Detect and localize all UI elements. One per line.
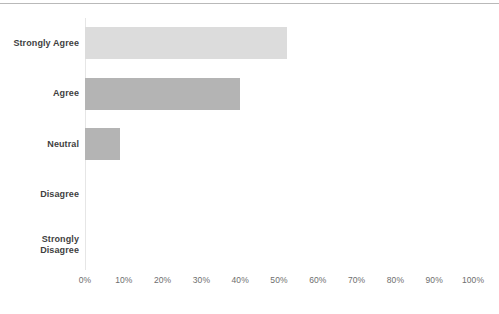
- category-label: Agree: [53, 88, 79, 99]
- category-axis-labels: Strongly AgreeAgreeNeutralDisagreeStrong…: [0, 18, 79, 270]
- bar: [85, 78, 240, 110]
- x-tick-label: 40%: [232, 275, 249, 285]
- plot-area: [85, 18, 473, 270]
- category-label-row: Strongly Disagree: [0, 231, 79, 259]
- category-label: Strongly Agree: [13, 38, 79, 49]
- category-label: Strongly Disagree: [40, 234, 79, 256]
- bar: [85, 128, 120, 160]
- x-tick-label: 50%: [270, 275, 287, 285]
- x-tick-label: 20%: [154, 275, 171, 285]
- x-tick-label: 10%: [115, 275, 132, 285]
- x-tick-label: 90%: [426, 275, 443, 285]
- category-label-row: Agree: [0, 80, 79, 108]
- x-tick-label: 80%: [387, 275, 404, 285]
- x-tick-label: 0%: [79, 275, 92, 285]
- bar-chart: Strongly AgreeAgreeNeutralDisagreeStrong…: [0, 0, 499, 314]
- x-tick-label: 70%: [348, 275, 365, 285]
- category-label: Neutral: [47, 139, 79, 150]
- bar: [85, 27, 287, 59]
- x-tick-label: 100%: [462, 275, 484, 285]
- category-label: Disagree: [40, 189, 79, 200]
- category-label-row: Disagree: [0, 180, 79, 208]
- x-axis-tick-labels: 0%10%20%30%40%50%60%70%80%90%100%: [0, 275, 499, 291]
- category-label-row: Neutral: [0, 130, 79, 158]
- category-label-row: Strongly Agree: [0, 29, 79, 57]
- x-tick-label: 30%: [193, 275, 210, 285]
- chart-plot-wrapper: Strongly AgreeAgreeNeutralDisagreeStrong…: [0, 0, 499, 314]
- x-tick-label: 60%: [309, 275, 326, 285]
